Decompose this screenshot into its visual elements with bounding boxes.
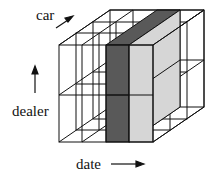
- cube-graphic: [0, 0, 217, 180]
- highlighted-date-slice: [106, 10, 204, 142]
- dealer-axis-label: dealer: [12, 104, 49, 119]
- data-cube-diagram: car dealer date: [0, 0, 217, 180]
- car-axis-label: car: [36, 8, 54, 23]
- car-axis-arrow-icon: [56, 16, 73, 28]
- dealer-axis-arrow-icon: [32, 66, 38, 93]
- date-axis-arrow-icon: [111, 161, 144, 167]
- date-axis-label: date: [76, 157, 101, 172]
